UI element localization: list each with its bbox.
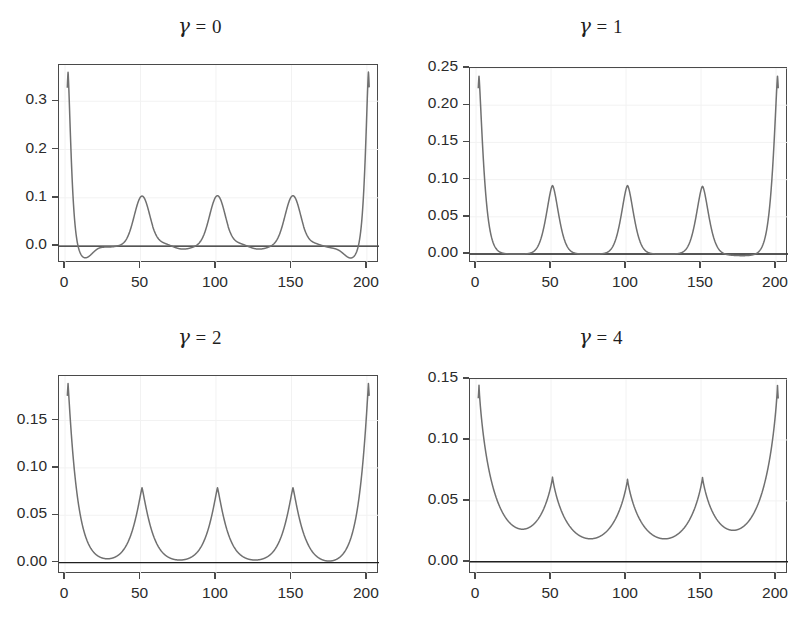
- panel-title-text: = 1: [591, 16, 623, 37]
- x-tick-label: 0: [445, 273, 505, 291]
- x-tick-mark: [549, 262, 550, 268]
- x-tick-mark: [365, 262, 366, 268]
- x-tick-label: 50: [110, 273, 170, 291]
- panel-title-text: = 0: [190, 16, 222, 37]
- x-tick-label: 200: [745, 584, 801, 602]
- x-tick-mark: [63, 573, 64, 579]
- y-tick-mark: [463, 438, 469, 439]
- x-tick-mark: [214, 573, 215, 579]
- x-tick-label: 0: [34, 273, 94, 291]
- y-tick-mark: [52, 148, 58, 149]
- gamma-symbol: γ: [178, 325, 190, 349]
- x-tick-label: 50: [520, 273, 580, 291]
- panel-gamma-2: γ = 2 0.000.050.100.15050100150200: [0, 325, 400, 622]
- y-tick-mark: [463, 215, 469, 216]
- y-tick-label: 0.05: [17, 504, 47, 522]
- y-tick-mark: [463, 252, 469, 253]
- x-tick-mark: [699, 573, 700, 579]
- y-tick-mark: [463, 560, 469, 561]
- y-tick-mark: [52, 514, 58, 515]
- x-tick-label: 200: [745, 273, 801, 291]
- y-tick-label: 0.1: [25, 187, 47, 205]
- y-tick-label: 0.00: [17, 552, 47, 570]
- figure-canvas: γ = 0 0.00.10.20.3050100150200 γ = 1 0.0…: [0, 0, 801, 622]
- y-tick-label: 0.25: [428, 57, 458, 75]
- x-tick-mark: [474, 573, 475, 579]
- data-curve: [67, 72, 369, 258]
- panel-title-gamma-1: γ = 1: [401, 14, 801, 38]
- x-tick-mark: [290, 262, 291, 268]
- y-tick-mark: [463, 141, 469, 142]
- x-tick-mark: [549, 573, 550, 579]
- x-tick-label: 100: [595, 273, 655, 291]
- y-tick-mark: [52, 419, 58, 420]
- x-tick-label: 150: [260, 584, 320, 602]
- x-tick-mark: [63, 262, 64, 268]
- x-tick-mark: [474, 262, 475, 268]
- x-tick-label: 100: [595, 584, 655, 602]
- plot-area-gamma-2: [58, 375, 378, 573]
- x-tick-mark: [699, 262, 700, 268]
- gamma-symbol: γ: [579, 325, 591, 349]
- x-tick-label: 50: [520, 584, 580, 602]
- panel-title-gamma-2: γ = 2: [0, 325, 400, 349]
- y-tick-label: 0.10: [428, 169, 458, 187]
- panel-gamma-1: γ = 1 0.000.050.100.150.200.250501001502…: [401, 14, 801, 311]
- y-tick-mark: [463, 499, 469, 500]
- x-tick-label: 100: [185, 584, 245, 602]
- plot-canvas: [59, 376, 379, 574]
- panel-title-gamma-4: γ = 4: [401, 325, 801, 349]
- plot-canvas: [470, 68, 788, 263]
- x-tick-label: 0: [445, 584, 505, 602]
- x-tick-label: 200: [336, 584, 396, 602]
- y-tick-mark: [463, 104, 469, 105]
- y-tick-label: 0.20: [428, 94, 458, 112]
- x-tick-label: 0: [34, 584, 94, 602]
- y-tick-label: 0.00: [428, 551, 458, 569]
- x-tick-label: 200: [336, 273, 396, 291]
- y-tick-mark: [52, 244, 58, 245]
- panel-gamma-4: γ = 4 0.000.050.100.15050100150200: [401, 325, 801, 622]
- gamma-symbol: γ: [579, 14, 591, 38]
- y-tick-mark: [463, 66, 469, 67]
- x-tick-mark: [774, 573, 775, 579]
- x-tick-mark: [774, 262, 775, 268]
- x-tick-label: 100: [185, 273, 245, 291]
- y-tick-label: 0.05: [428, 490, 458, 508]
- x-tick-mark: [624, 262, 625, 268]
- panel-title-gamma-0: γ = 0: [0, 14, 400, 38]
- plot-area-gamma-0: [58, 64, 378, 262]
- x-tick-mark: [139, 573, 140, 579]
- x-tick-label: 50: [110, 584, 170, 602]
- data-curve: [67, 384, 369, 561]
- x-tick-mark: [214, 262, 215, 268]
- x-tick-mark: [290, 573, 291, 579]
- y-tick-label: 0.15: [428, 131, 458, 149]
- y-tick-label: 0.2: [25, 139, 47, 157]
- y-tick-mark: [463, 178, 469, 179]
- panel-gamma-0: γ = 0 0.00.10.20.3050100150200: [0, 14, 400, 311]
- x-tick-mark: [139, 262, 140, 268]
- plot-area-gamma-4: [469, 378, 787, 573]
- data-curve: [478, 76, 778, 255]
- x-tick-label: 150: [670, 584, 730, 602]
- x-tick-label: 150: [670, 273, 730, 291]
- y-tick-label: 0.15: [428, 368, 458, 386]
- y-tick-label: 0.10: [428, 429, 458, 447]
- y-tick-label: 0.05: [428, 206, 458, 224]
- y-tick-mark: [52, 561, 58, 562]
- y-tick-mark: [52, 100, 58, 101]
- plot-area-gamma-1: [469, 67, 787, 262]
- panel-title-text: = 4: [591, 327, 623, 348]
- y-tick-label: 0.3: [25, 90, 47, 108]
- x-tick-mark: [624, 573, 625, 579]
- y-tick-label: 0.15: [17, 410, 47, 428]
- data-curve: [478, 385, 778, 539]
- x-tick-label: 150: [260, 273, 320, 291]
- plot-canvas: [59, 65, 379, 263]
- y-tick-label: 0.0: [25, 235, 47, 253]
- y-tick-mark: [463, 377, 469, 378]
- y-tick-mark: [52, 466, 58, 467]
- gamma-symbol: γ: [178, 14, 190, 38]
- y-tick-mark: [52, 196, 58, 197]
